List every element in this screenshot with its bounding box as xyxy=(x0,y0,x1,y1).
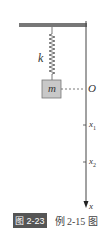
axis-x-label: x xyxy=(89,202,93,211)
x1-subscript: 1 xyxy=(93,125,96,131)
spring xyxy=(49,27,55,80)
ceiling xyxy=(19,23,87,27)
figure-caption: 图 2-23 例 2-15 图 xyxy=(13,213,98,228)
x-axis-arrow-icon xyxy=(84,201,89,208)
spring-constant-label: k xyxy=(38,52,43,64)
figure-number: 图 2-23 xyxy=(13,213,47,228)
mass-label: m xyxy=(48,83,56,94)
figure-caption-text: 例 2-15 图 xyxy=(55,213,98,228)
origin-label: O xyxy=(88,83,96,94)
x1-label: x1 xyxy=(89,120,96,131)
x2-label: x2 xyxy=(89,157,96,168)
x2-subscript: 2 xyxy=(93,162,96,168)
